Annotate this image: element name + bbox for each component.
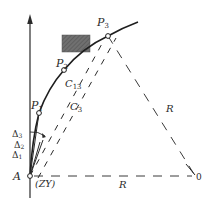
point-p3 xyxy=(106,34,111,39)
label-delta3: Δ3 xyxy=(12,129,23,139)
label-p1: P1 xyxy=(30,99,43,113)
label-c3: C3 xyxy=(70,101,82,114)
label-zy: (ZY) xyxy=(35,178,56,189)
label-p2: P2 xyxy=(55,57,68,71)
label-r-diagonal: R xyxy=(165,103,174,114)
label-c13: C13 xyxy=(65,78,82,91)
curve-layout-diagram: P3 P2 P1 C13 C3 Δ3 Δ2 Δ1 A (ZY) R R 0 xyxy=(0,0,215,200)
arc-arrow-icon xyxy=(42,133,46,138)
arrow-up-icon xyxy=(27,14,33,24)
chord-a-p1 xyxy=(30,113,39,176)
point-a xyxy=(28,174,33,179)
arrow-to-center-icon xyxy=(186,164,195,175)
label-p3: P3 xyxy=(96,16,109,30)
label-center-o: 0 xyxy=(196,172,202,182)
label-a: A xyxy=(12,170,21,183)
radius-line-p3-o xyxy=(108,36,194,174)
label-r-horizontal: R xyxy=(118,179,127,190)
label-delta2: Δ2 xyxy=(14,140,25,150)
label-delta1: Δ1 xyxy=(12,150,22,160)
